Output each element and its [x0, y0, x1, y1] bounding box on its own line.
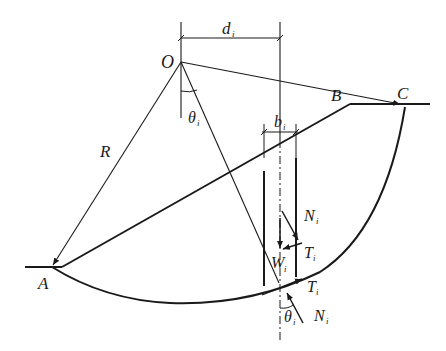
label-W-sub: i [284, 264, 287, 274]
label-theta-top: θ [188, 109, 196, 126]
label-N-base-sub: i [326, 316, 329, 326]
label-T-upper-sub: i [313, 253, 316, 263]
moment-arm-dimension [178, 35, 283, 41]
shear-force-arrow-upper [283, 243, 302, 249]
ground-profile [25, 104, 430, 267]
slip-arc [52, 107, 405, 303]
radius-to-C [181, 62, 400, 104]
label-b: b [274, 113, 282, 130]
label-theta-base-sub: i [293, 317, 296, 327]
label-A: A [37, 274, 49, 293]
label-B: B [331, 86, 342, 105]
label-theta-top-sub: i [197, 118, 200, 128]
label-d: d [222, 19, 231, 38]
label-N-upper: N [303, 207, 316, 224]
label-R: R [99, 142, 111, 161]
slope-surface [62, 104, 350, 267]
label-b-sub: i [283, 122, 286, 132]
label-O: O [161, 52, 174, 72]
label-N-upper-sub: i [316, 216, 319, 226]
slope-stability-diagram: O R A B C d i b i θ i N i T i W i T i N … [0, 0, 446, 351]
label-C: C [397, 84, 409, 103]
radius-to-A [53, 62, 181, 265]
shear-force-arrow-base [282, 279, 302, 287]
label-N-base: N [313, 307, 326, 324]
label-theta-base: θ [284, 308, 292, 325]
label-T-base-sub: i [316, 287, 319, 297]
